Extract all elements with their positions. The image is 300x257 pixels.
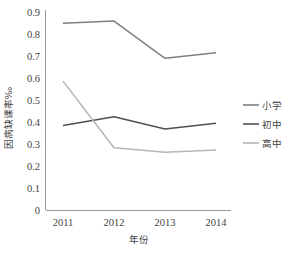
legend-item-gaozhong[interactable]: 高中 [243,138,282,149]
x-tick-label: 2011 [53,217,74,228]
y-tick-label: 0 [35,205,40,216]
legend-label: 初中 [262,119,282,130]
series-line-xiaoxue [63,21,216,58]
series-line-gaozhong [63,81,216,152]
y-tick-label: 0.1 [27,183,40,194]
y-tick-label: 0.9 [27,7,40,18]
y-tick-label: 0.6 [27,73,40,84]
y-tick-label: 0.3 [27,139,40,150]
legend-label: 高中 [262,138,282,149]
chart-container: 0.9 0.8 0.7 0.6 0.5 0.4 0.3 0.2 0.1 0 因病… [0,0,300,257]
legend-item-xiaoxue[interactable]: 小学 [243,100,282,111]
legend-item-chuzhong[interactable]: 初中 [243,119,282,130]
y-axis-tick-labels: 0.9 0.8 0.7 0.6 0.5 0.4 0.3 0.2 0.1 0 [27,7,41,216]
series-line-chuzhong [63,117,216,129]
x-tick-label: 2013 [155,217,176,228]
y-axis-title: 因病缺课率‰ [3,86,14,149]
legend-label: 小学 [262,100,282,111]
y-tick-label: 0.5 [27,95,40,106]
y-tick-label: 0.4 [27,117,41,128]
x-axis-tick-labels: 2011 2012 2013 2014 [53,217,228,228]
x-tick-label: 2014 [206,217,228,228]
y-tick-label: 0.2 [27,161,40,172]
line-chart: 0.9 0.8 0.7 0.6 0.5 0.4 0.3 0.2 0.1 0 因病… [0,0,300,257]
y-tick-label: 0.7 [27,51,40,62]
x-tick-label: 2012 [104,217,125,228]
y-tick-label: 0.8 [27,29,40,40]
x-axis-title: 年份 [129,234,149,245]
chart-legend: 小学 初中 高中 [243,100,282,149]
